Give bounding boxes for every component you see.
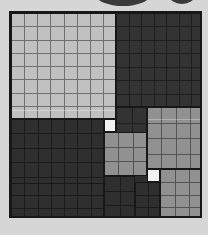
grid-cell[interactable]	[149, 183, 161, 196]
grid-cell[interactable]	[148, 108, 162, 124]
grid-cell[interactable]	[25, 134, 38, 148]
grid-cell[interactable]	[39, 163, 52, 177]
grid-cell[interactable]	[51, 80, 64, 93]
grid-cell[interactable]	[177, 139, 191, 155]
grid-cell[interactable]	[65, 107, 78, 119]
grid-cell[interactable]	[155, 14, 168, 27]
grid-cell[interactable]	[142, 54, 155, 67]
grid-cell[interactable]	[130, 81, 143, 94]
block-right-mid-gray[interactable]	[147, 107, 202, 169]
grid-cell[interactable]	[78, 107, 91, 119]
grid-cell[interactable]	[119, 148, 133, 163]
grid-cell[interactable]	[176, 196, 191, 209]
grid-cell[interactable]	[148, 170, 160, 182]
block-white-cell-upper[interactable]	[104, 119, 116, 132]
grid-cell[interactable]	[78, 134, 91, 148]
grid-cell[interactable]	[130, 41, 143, 54]
grid-cell[interactable]	[167, 68, 180, 81]
grid-cell[interactable]	[155, 41, 168, 54]
grid-cell[interactable]	[155, 54, 168, 67]
grid-cell[interactable]	[39, 134, 52, 148]
grid-cell[interactable]	[25, 107, 38, 119]
grid-cell[interactable]	[192, 95, 202, 107]
grid-cell[interactable]	[65, 149, 78, 163]
grid-cell[interactable]	[161, 170, 176, 183]
grid-cell[interactable]	[65, 67, 78, 80]
grid-cell[interactable]	[142, 27, 155, 40]
grid-cell[interactable]	[12, 134, 25, 148]
grid-cell[interactable]	[52, 120, 65, 134]
grid-cell[interactable]	[117, 27, 130, 40]
grid-cell[interactable]	[190, 183, 202, 196]
grid-cell[interactable]	[78, 27, 91, 40]
grid-cell[interactable]	[155, 95, 168, 107]
grid-cell[interactable]	[25, 149, 38, 163]
grid-cell[interactable]	[65, 94, 78, 107]
grid-cell[interactable]	[65, 41, 78, 54]
grid-cell[interactable]	[117, 81, 130, 94]
grid-cell[interactable]	[52, 163, 65, 177]
grid-cell[interactable]	[136, 208, 149, 218]
grid-cell[interactable]	[155, 81, 168, 94]
block-grid-board[interactable]	[9, 11, 202, 218]
grid-cell[interactable]	[142, 68, 155, 81]
grid-cell[interactable]	[25, 67, 38, 80]
grid-cell[interactable]	[104, 41, 116, 54]
grid-cell[interactable]	[65, 27, 78, 40]
grid-cell[interactable]	[177, 124, 191, 140]
grid-cell[interactable]	[134, 162, 147, 176]
grid-cell[interactable]	[51, 94, 64, 107]
grid-cell[interactable]	[92, 184, 104, 196]
grid-cell[interactable]	[65, 163, 78, 177]
grid-cell[interactable]	[25, 209, 38, 218]
grid-cell[interactable]	[91, 80, 104, 93]
grid-cell[interactable]	[117, 68, 130, 81]
block-top-right-dark[interactable]	[116, 13, 202, 107]
grid-cell[interactable]	[104, 94, 116, 107]
grid-cell[interactable]	[105, 133, 119, 148]
grid-cell[interactable]	[65, 14, 78, 27]
grid-cell[interactable]	[38, 80, 51, 93]
grid-cell[interactable]	[38, 14, 51, 27]
grid-cell[interactable]	[39, 184, 52, 196]
grid-cell[interactable]	[91, 14, 104, 27]
grid-cell[interactable]	[38, 41, 51, 54]
grid-cell[interactable]	[176, 208, 191, 218]
grid-cell[interactable]	[78, 184, 91, 196]
block-bottom-left-strip[interactable]	[11, 183, 104, 218]
grid-cell[interactable]	[192, 41, 202, 54]
grid-cell[interactable]	[51, 14, 64, 27]
grid-cell[interactable]	[162, 155, 176, 170]
grid-cell[interactable]	[12, 94, 25, 107]
grid-cell[interactable]	[91, 67, 104, 80]
grid-cell[interactable]	[105, 162, 119, 176]
grid-cell[interactable]	[190, 170, 202, 183]
grid-cell[interactable]	[12, 67, 25, 80]
grid-cell[interactable]	[192, 68, 202, 81]
grid-cell[interactable]	[142, 95, 155, 107]
grid-cell[interactable]	[130, 95, 143, 107]
grid-cell[interactable]	[177, 155, 191, 170]
grid-cell[interactable]	[191, 139, 202, 155]
grid-cell[interactable]	[180, 14, 193, 27]
grid-cell[interactable]	[105, 177, 121, 192]
grid-cell[interactable]	[52, 196, 65, 208]
grid-cell[interactable]	[167, 54, 180, 67]
grid-cell[interactable]	[121, 206, 136, 218]
grid-cell[interactable]	[162, 108, 176, 124]
grid-cell[interactable]	[52, 134, 65, 148]
grid-cell[interactable]	[155, 68, 168, 81]
grid-cell[interactable]	[25, 94, 38, 107]
grid-cell[interactable]	[162, 139, 176, 155]
grid-cell[interactable]	[78, 209, 91, 218]
block-white-cell-lower[interactable]	[147, 169, 160, 182]
grid-cell[interactable]	[117, 54, 130, 67]
grid-cell[interactable]	[104, 27, 116, 40]
grid-cell[interactable]	[25, 14, 38, 27]
block-right-lower-gray[interactable]	[160, 169, 202, 218]
grid-cell[interactable]	[119, 162, 133, 176]
grid-cell[interactable]	[65, 134, 78, 148]
grid-cell[interactable]	[78, 67, 91, 80]
grid-cell[interactable]	[65, 120, 78, 134]
grid-cell[interactable]	[136, 183, 149, 196]
